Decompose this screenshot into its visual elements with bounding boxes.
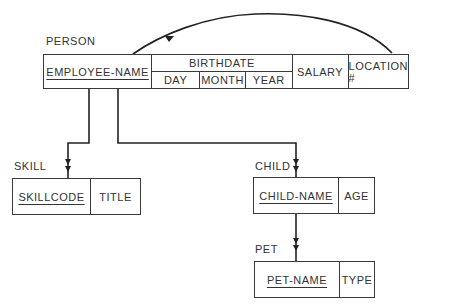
- skillcode-key: SKILLCODE: [18, 191, 84, 203]
- child-label: CHILD: [255, 160, 291, 172]
- employee-name-key: EMPLOYEE-NAME: [46, 66, 148, 78]
- skill-label: SKILL: [14, 160, 46, 172]
- person-record: EMPLOYEE-NAME BIRTHDATE DAY MONTH YEAR S…: [43, 54, 409, 89]
- birthdate-title: BIRTHDATE: [152, 55, 291, 72]
- location-to-employee-arc: [133, 14, 392, 54]
- month-field: MONTH: [200, 72, 246, 88]
- skillcode-field: SKILLCODE: [13, 179, 91, 214]
- pet-name-key: PET-NAME: [267, 274, 327, 286]
- age-field: AGE: [339, 178, 374, 213]
- person-to-skill-line: [68, 88, 89, 178]
- day-field: DAY: [152, 72, 200, 88]
- arc-arrowhead-icon: [165, 36, 174, 42]
- skill-record: SKILLCODE TITLE: [12, 178, 141, 215]
- pet-name-field: PET-NAME: [255, 262, 340, 297]
- year-field: YEAR: [246, 72, 291, 88]
- location-field: LOCATION #: [349, 55, 408, 88]
- type-field: TYPE: [340, 262, 374, 297]
- child-record: CHILD-NAME AGE: [253, 177, 375, 214]
- pet-label: PET: [255, 243, 278, 255]
- child-name-key: CHILD-NAME: [259, 190, 332, 202]
- employee-name-field: EMPLOYEE-NAME: [44, 55, 152, 88]
- birthdate-group: BIRTHDATE DAY MONTH YEAR: [152, 55, 292, 88]
- person-label: PERSON: [46, 35, 95, 47]
- pet-record: PET-NAME TYPE: [254, 261, 375, 298]
- salary-field: SALARY: [293, 55, 349, 88]
- title-field: TITLE: [91, 179, 140, 214]
- child-name-field: CHILD-NAME: [254, 178, 339, 213]
